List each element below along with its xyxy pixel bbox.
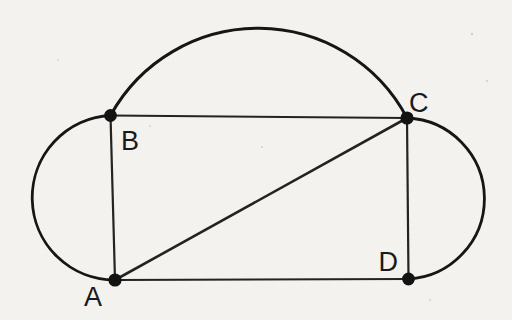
side-cd [407, 118, 409, 279]
vertex-label-d: D [379, 247, 399, 277]
vertex-dot-b [104, 109, 117, 122]
vertex-dot-a [108, 273, 121, 286]
vertex-dot-d [402, 273, 415, 286]
scanned-page: A B C D [0, 0, 512, 320]
vertex-label-c: C [409, 88, 429, 118]
vertex-label-b: B [121, 126, 139, 156]
geometry-diagram: A B C D [0, 0, 512, 320]
vertex-label-a: A [84, 282, 102, 312]
side-ad [115, 279, 409, 280]
